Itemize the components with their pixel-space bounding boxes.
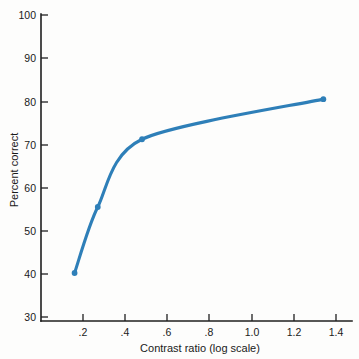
y-tick-labels: 100 90 80 70 60 50 40 30 <box>18 9 36 323</box>
data-point <box>320 96 326 102</box>
x-tick-label-1-0: 1.0 <box>245 326 260 338</box>
chart-figure: 100 90 80 70 60 50 40 30 .2 .4 .6 .8 1.0 <box>0 0 359 359</box>
data-point <box>95 204 101 210</box>
y-tick-marks <box>41 15 48 317</box>
y-tick-label-90: 90 <box>24 52 36 64</box>
y-tick-label-100: 100 <box>18 9 36 21</box>
x-tick-label-0-8: .8 <box>205 326 214 338</box>
y-tick-label-30: 30 <box>24 311 36 323</box>
data-curve <box>75 99 324 273</box>
y-tick-label-80: 80 <box>24 96 36 108</box>
x-axis-title: Contrast ratio (log scale) <box>140 342 260 354</box>
y-tick-label-40: 40 <box>24 268 36 280</box>
line-chart: 100 90 80 70 60 50 40 30 .2 .4 .6 .8 1.0 <box>0 0 359 359</box>
y-tick-label-70: 70 <box>24 139 36 151</box>
axes-group <box>41 14 352 321</box>
x-tick-marks <box>83 314 336 321</box>
x-tick-labels: .2 .4 .6 .8 1.0 1.2 1.4 <box>79 326 344 338</box>
y-tick-label-60: 60 <box>24 182 36 194</box>
x-tick-label-0-6: .6 <box>163 326 172 338</box>
x-tick-label-1-4: 1.4 <box>329 326 344 338</box>
x-tick-label-0-4: .4 <box>121 326 130 338</box>
x-tick-label-0-2: .2 <box>79 326 88 338</box>
data-point <box>72 270 78 276</box>
y-axis-title: Percent correct <box>8 133 20 208</box>
x-tick-label-1-2: 1.2 <box>287 326 302 338</box>
y-tick-label-50: 50 <box>24 225 36 237</box>
data-point <box>139 136 145 142</box>
